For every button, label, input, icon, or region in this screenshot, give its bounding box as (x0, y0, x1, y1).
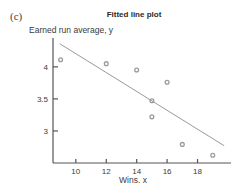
y-axis-ticks: 33.54 (37, 63, 58, 136)
data-point-marker (135, 68, 139, 72)
data-point-marker (211, 153, 215, 157)
data-point-marker (180, 143, 184, 147)
data-point-marker (104, 62, 108, 66)
fitted-line (60, 44, 224, 146)
x-axis-ticks: 1012141618 (71, 159, 202, 176)
data-point-marker (59, 58, 63, 62)
fitted-regression-line (60, 44, 224, 146)
y-tick-label: 3.5 (37, 95, 49, 104)
fitted-line-plot-figure: (c) Fitted line plot Earned run average,… (0, 0, 232, 183)
data-point-marker (150, 115, 154, 119)
plot-area: 1012141618 33.54 (0, 0, 232, 183)
data-point-marker (165, 80, 169, 84)
x-axis-label: Wins, x (0, 175, 232, 183)
data-points (59, 58, 215, 157)
y-tick-label: 4 (44, 63, 49, 72)
axes (53, 38, 231, 163)
y-tick-label: 3 (44, 127, 49, 136)
